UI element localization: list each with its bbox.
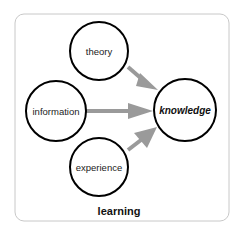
node-experience: experience xyxy=(70,138,128,196)
node-theory: theory xyxy=(70,22,128,80)
learning-diagram: theory information experience knowledge … xyxy=(0,0,240,236)
node-theory-label: theory xyxy=(86,46,113,57)
node-knowledge: knowledge xyxy=(154,79,216,141)
node-knowledge-label: knowledge xyxy=(159,105,211,116)
node-experience-label: experience xyxy=(76,162,122,173)
node-information-label: information xyxy=(33,106,80,117)
node-information: information xyxy=(26,81,86,141)
diagram-title: learning xyxy=(98,205,141,217)
